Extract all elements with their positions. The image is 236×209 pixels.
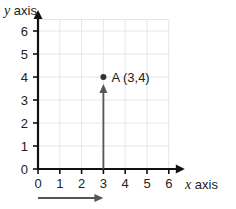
point-label-A: A (3,4) (111, 70, 149, 85)
x-tick-label-6: 6 (165, 176, 172, 191)
axes (34, 10, 185, 174)
x-tick-label-2: 2 (78, 176, 85, 191)
x-tick-label-3: 3 (100, 176, 107, 191)
y-tick-label-3: 3 (21, 93, 28, 108)
y-tick-label-5: 5 (21, 47, 28, 62)
x-axis-label: x axis (184, 177, 218, 192)
y-tick-label-6: 6 (21, 24, 28, 39)
x-tick-label-4: 4 (122, 176, 129, 191)
y-tick-label-4: 4 (21, 70, 28, 85)
y-tick-label-2: 2 (21, 116, 28, 131)
y-tick-label-0: 0 (21, 162, 28, 177)
y-axis-label: y axis (2, 3, 37, 18)
x-tick-label-1: 1 (56, 176, 63, 191)
tick-labels: 01234560123456 (21, 24, 173, 191)
coordinate-grid-chart: 01234560123456 A (3,4) y axis x axis (0, 0, 236, 209)
x-tick-label-5: 5 (143, 176, 150, 191)
tick-marks (33, 31, 169, 174)
horizontal-move-arrowhead (94, 194, 103, 202)
vertical-move-arrowhead (99, 84, 107, 93)
y-tick-label-1: 1 (21, 139, 28, 154)
x-axis-arrowhead (176, 165, 185, 174)
point-A (100, 74, 106, 80)
movement-arrows (38, 84, 107, 202)
x-tick-label-0: 0 (34, 176, 41, 191)
